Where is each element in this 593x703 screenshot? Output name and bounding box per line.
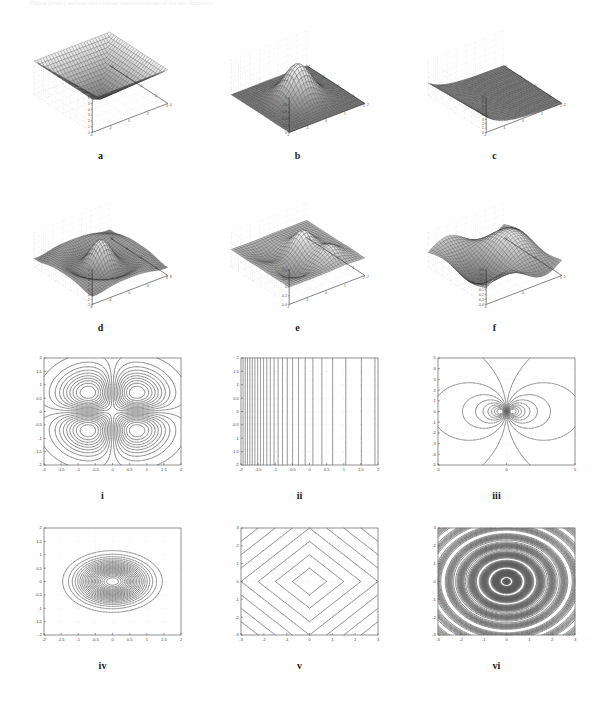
svg-text:-0.5: -0.5 xyxy=(288,467,296,472)
svg-text:8: 8 xyxy=(481,96,483,100)
svg-text:-2: -2 xyxy=(366,275,369,279)
svg-text:-1.5: -1.5 xyxy=(231,449,239,454)
svg-text:0: 0 xyxy=(111,637,114,642)
svg-text:3: 3 xyxy=(87,113,89,117)
svg-text:2: 2 xyxy=(87,283,89,287)
svg-text:-8: -8 xyxy=(169,275,172,279)
svg-text:-1: -1 xyxy=(76,637,80,642)
svg-text:1: 1 xyxy=(520,75,522,79)
svg-text:0.8: 0.8 xyxy=(282,103,287,107)
svg-text:-2: -2 xyxy=(108,126,111,130)
svg-text:-0.3: -0.3 xyxy=(478,298,484,302)
svg-text:1: 1 xyxy=(433,398,436,403)
svg-text:2: 2 xyxy=(236,355,239,360)
svg-text:6: 6 xyxy=(87,96,89,100)
svg-text:-2: -2 xyxy=(432,430,436,435)
svg-text:-1: -1 xyxy=(76,467,80,472)
plot-canvas-ii: -2-1.5-1-0.500.511.52-2-1.5-1-0.500.511.… xyxy=(215,352,385,482)
svg-text:-2: -2 xyxy=(235,615,239,620)
svg-text:5: 5 xyxy=(573,467,576,472)
svg-text:0: 0 xyxy=(505,637,508,642)
svg-text:-2: -2 xyxy=(432,615,436,620)
panel-label-v: v xyxy=(215,660,385,671)
svg-text:0.5: 0.5 xyxy=(36,566,42,571)
svg-text:6: 6 xyxy=(481,105,483,109)
svg-text:1.5: 1.5 xyxy=(36,539,42,544)
svg-text:0: 0 xyxy=(236,579,239,584)
svg-text:0.6: 0.6 xyxy=(282,110,287,114)
svg-text:0: 0 xyxy=(140,256,142,260)
svg-text:2: 2 xyxy=(362,104,364,108)
svg-text:1: 1 xyxy=(39,382,42,387)
panel-label-c: c xyxy=(406,150,584,161)
svg-text:0: 0 xyxy=(337,256,339,260)
svg-text:4: 4 xyxy=(87,273,89,277)
figure-page: Figure (cont.) surface and contour repre… xyxy=(0,0,593,703)
svg-text:-1.5: -1.5 xyxy=(57,467,65,472)
svg-text:0: 0 xyxy=(236,409,239,414)
svg-text:2: 2 xyxy=(126,75,128,79)
svg-text:1: 1 xyxy=(541,112,543,116)
svg-text:2: 2 xyxy=(308,237,310,241)
svg-text:1: 1 xyxy=(344,112,346,116)
svg-text:-4: -4 xyxy=(154,266,157,270)
svg-text:1: 1 xyxy=(323,247,325,251)
svg-text:7: 7 xyxy=(481,100,483,104)
svg-text:0: 0 xyxy=(505,467,508,472)
contour-plot-grid: -2-1.5-1-0.500.511.52-2-1.5-1-0.500.511.… xyxy=(0,352,593,703)
svg-text:2: 2 xyxy=(505,65,507,69)
svg-text:4: 4 xyxy=(147,284,149,288)
svg-text:-0.1: -0.1 xyxy=(478,288,484,292)
svg-text:-4: -4 xyxy=(108,298,111,302)
svg-text:-2: -2 xyxy=(239,467,243,472)
svg-text:0: 0 xyxy=(325,119,327,123)
svg-text:0: 0 xyxy=(308,467,311,472)
svg-text:0: 0 xyxy=(337,84,339,88)
svg-text:1: 1 xyxy=(145,637,148,642)
svg-text:2: 2 xyxy=(354,637,357,642)
svg-text:-2: -2 xyxy=(563,103,566,107)
panel-label-ii: ii xyxy=(215,490,385,501)
panel-label-e: e xyxy=(209,322,387,333)
svg-text:5: 5 xyxy=(505,237,507,241)
svg-text:0.1: 0.1 xyxy=(479,278,484,282)
svg-text:4: 4 xyxy=(126,247,128,251)
plot-canvas-e: -0.4-0.200.20.4-2-1012-2-1012 xyxy=(209,184,387,312)
svg-text:-5: -5 xyxy=(483,305,486,309)
svg-text:-2: -2 xyxy=(42,467,46,472)
svg-text:1: 1 xyxy=(331,637,334,642)
figure-ghost-caption: Figure (cont.) surface and contour repre… xyxy=(30,0,570,10)
svg-text:1: 1 xyxy=(481,126,483,130)
panel-label-vi: vi xyxy=(412,660,582,671)
svg-text:0: 0 xyxy=(433,579,436,584)
panel-label-iv: iv xyxy=(18,660,188,671)
plot-panel-vi: -3-2-10123-3-2-10123vi xyxy=(412,522,582,652)
panel-label-b: b xyxy=(209,150,387,161)
svg-text:-2: -2 xyxy=(459,637,463,642)
panel-label-i: i xyxy=(18,490,188,501)
svg-text:-1: -1 xyxy=(432,420,436,425)
svg-text:2: 2 xyxy=(87,119,89,123)
svg-text:0: 0 xyxy=(325,291,327,295)
svg-text:0: 0 xyxy=(39,409,42,414)
svg-text:2: 2 xyxy=(147,112,149,116)
plot-panel-iv: -2-1.5-1-0.500.511.52-2-1.5-1-0.500.511.… xyxy=(18,522,188,652)
svg-text:2: 2 xyxy=(362,276,364,280)
plot-panel-b: 00.20.40.60.81-2-1012-2-1012b xyxy=(209,12,387,140)
svg-text:-0.5: -0.5 xyxy=(34,592,42,597)
svg-text:3: 3 xyxy=(573,637,576,642)
svg-text:-0.2: -0.2 xyxy=(281,294,287,298)
svg-text:4: 4 xyxy=(481,113,483,117)
svg-text:3: 3 xyxy=(433,525,436,530)
svg-text:0: 0 xyxy=(433,409,436,414)
svg-text:3: 3 xyxy=(236,525,239,530)
svg-text:0.3: 0.3 xyxy=(479,268,484,272)
svg-text:1: 1 xyxy=(433,561,436,566)
svg-text:1.5: 1.5 xyxy=(161,467,167,472)
svg-text:-1: -1 xyxy=(351,94,354,98)
svg-text:0.5: 0.5 xyxy=(36,396,42,401)
svg-text:1: 1 xyxy=(145,467,148,472)
svg-text:-1: -1 xyxy=(273,467,277,472)
panel-label-d: d xyxy=(12,322,190,333)
plot-panel-iii: -505-5-4-3-2-1012345iii xyxy=(412,352,582,482)
